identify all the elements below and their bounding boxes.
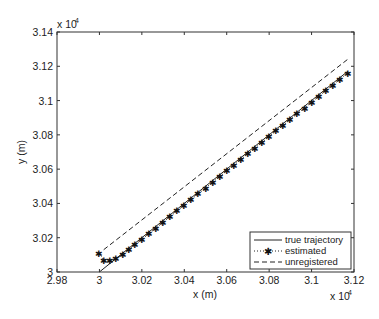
x-tick-label: 3.04 xyxy=(174,274,195,286)
x-tick-label: 3 xyxy=(97,274,103,286)
x-tick-label: 3.02 xyxy=(132,274,153,286)
legend-item-unregistered: unregistered xyxy=(285,256,338,267)
x-exponent-base: x 10 xyxy=(330,290,350,302)
legend-item-true-trajectory: true trajectory xyxy=(285,234,343,245)
series-unregistered xyxy=(104,59,348,249)
y-tick-label: 3.06 xyxy=(33,163,54,175)
y-exponent-base: x 10 xyxy=(57,18,77,30)
legend-star-marker-icon: ✱ xyxy=(264,246,272,257)
x-tick-label: 3.1 xyxy=(304,274,319,286)
y-exponent-power: 4 xyxy=(75,17,79,24)
y-axis-label: y (m) xyxy=(15,140,27,164)
chart: ✱✱✱✱✱✱✱✱✱✱✱✱✱✱✱✱✱✱✱✱✱✱✱✱✱✱✱✱✱✱✱✱✱✱✱✱✱ 2.… xyxy=(0,0,379,319)
star-marker-icon: ✱ xyxy=(344,69,352,79)
y-tick-label: 3 xyxy=(47,266,53,278)
x-axis-label: x (m) xyxy=(193,288,217,300)
y-tick-label: 3.12 xyxy=(33,60,54,72)
y-exponent: x 10 4 xyxy=(57,17,79,30)
x-tick-label: 3.12 xyxy=(344,274,365,286)
x-exponent: x 10 4 xyxy=(330,289,352,302)
y-tick-label: 3.1 xyxy=(38,95,53,107)
legend-item-estimated: estimated xyxy=(285,245,326,256)
legend: true trajectory ✱ estimated unregistered xyxy=(250,232,351,269)
y-tick-label: 3.04 xyxy=(33,197,54,209)
y-tick-label: 3.08 xyxy=(33,129,54,141)
x-exponent-power: 4 xyxy=(348,289,352,296)
x-tick-label: 3.08 xyxy=(259,274,280,286)
y-tick-label: 3.14 xyxy=(33,26,54,38)
x-tick-label: 3.06 xyxy=(216,274,237,286)
y-tick-label: 3.02 xyxy=(33,232,54,244)
